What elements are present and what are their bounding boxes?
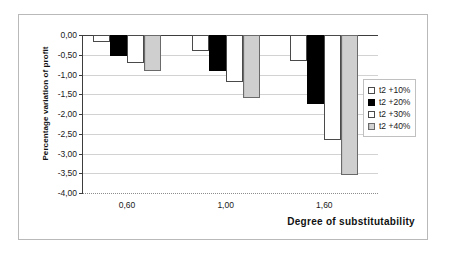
y-tick-label: -2,00 (58, 109, 77, 119)
y-tick-mark (79, 55, 83, 56)
y-tick-mark (79, 154, 83, 155)
legend-item-label: t2 +10% (379, 85, 410, 95)
bar (341, 35, 358, 175)
y-tick-mark (79, 35, 83, 36)
legend-item[interactable]: t2 +20% (368, 96, 410, 108)
bar (110, 35, 127, 56)
y-tick-label: -2,50 (58, 129, 77, 139)
bar (226, 35, 243, 82)
legend-item[interactable]: t2 +10% (368, 84, 410, 96)
y-tick-mark (79, 193, 83, 194)
x-tick-label: 1,00 (217, 200, 234, 210)
bar (192, 35, 209, 51)
x-axis-title: Degree of substitutability (287, 216, 415, 227)
chart-legend: t2 +10%t2 +20%t2 +30%t2 +40% (363, 79, 416, 137)
gridline (83, 154, 378, 155)
y-tick-mark (79, 75, 83, 76)
plot-inner: 0,00-0,50-1,00-1,50-2,00-2,50-3,00-3,50-… (82, 35, 378, 193)
y-tick-mark (79, 173, 83, 174)
legend-item[interactable]: t2 +40% (368, 120, 410, 132)
y-tick-label: -3,00 (58, 149, 77, 159)
legend-item-label: t2 +30% (379, 109, 410, 119)
bar (93, 35, 110, 42)
y-tick-label: -0,50 (58, 50, 77, 60)
y-tick-label: -3,50 (58, 168, 77, 178)
legend-item-label: t2 +20% (379, 97, 410, 107)
y-tick-label: 0,00 (60, 30, 77, 40)
y-tick-mark (79, 134, 83, 135)
bar (209, 35, 226, 71)
bar (307, 35, 324, 104)
y-tick-mark (79, 114, 83, 115)
bar (324, 35, 341, 140)
y-tick-label: -1,50 (58, 89, 77, 99)
legend-swatch-icon (368, 111, 375, 118)
gridline (83, 173, 378, 174)
legend-swatch-icon (368, 99, 375, 106)
legend-item-label: t2 +40% (379, 121, 410, 131)
y-tick-label: -4,00 (58, 188, 77, 198)
x-tick-label: 0,60 (119, 200, 136, 210)
legend-swatch-icon (368, 123, 375, 130)
bar (144, 35, 161, 71)
bar (127, 35, 144, 63)
gridline (83, 193, 378, 194)
chart-frame: Percentage variation of profit 0,00-0,50… (18, 14, 428, 240)
y-tick-mark (79, 94, 83, 95)
x-tick-label: 1,60 (316, 200, 333, 210)
plot-area: 0,00-0,50-1,00-1,50-2,00-2,50-3,00-3,50-… (82, 35, 378, 193)
legend-item[interactable]: t2 +30% (368, 108, 410, 120)
legend-swatch-icon (368, 87, 375, 94)
bar (290, 35, 307, 61)
bar (243, 35, 260, 98)
y-axis-title: Percentage variation of profit (41, 24, 50, 184)
y-tick-label: -1,00 (58, 70, 77, 80)
